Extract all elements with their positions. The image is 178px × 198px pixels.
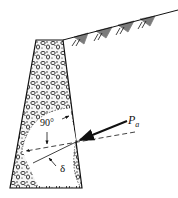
angle-90-label: 90° bbox=[40, 118, 54, 128]
delta-angle-label: δ bbox=[60, 163, 65, 174]
backfill-ground-surface bbox=[63, 10, 178, 46]
pa-subscript: a bbox=[135, 120, 139, 129]
pa-force-label: Pa bbox=[128, 114, 139, 129]
ground-hatching bbox=[72, 16, 155, 46]
retaining-wall-diagram bbox=[0, 0, 178, 198]
pa-force-arrow bbox=[80, 121, 127, 140]
